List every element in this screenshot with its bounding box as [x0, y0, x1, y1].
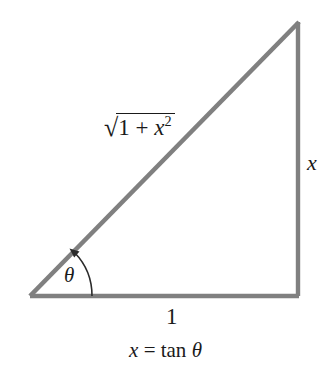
radical-sign: √	[104, 115, 118, 141]
adjacent-side-label: 1	[166, 305, 178, 328]
opposite-side-label: x	[307, 152, 317, 174]
radicand-variable: x	[154, 115, 164, 140]
radical-expression: √1 + x2	[104, 113, 175, 140]
triangle-hypotenuse-line	[30, 22, 299, 296]
caption-function: tan	[161, 338, 187, 362]
triangle-figure: √1 + x2 x 1 θ x = tan θ	[0, 0, 331, 371]
radicand-exponent: 2	[164, 113, 171, 129]
caption-variable: x	[129, 338, 138, 362]
hypotenuse-label: √1 + x2	[104, 113, 175, 140]
caption-angle: θ	[192, 338, 202, 362]
radicand-first-term: 1	[118, 115, 130, 140]
caption-equals: =	[138, 338, 160, 362]
radicand-operator: +	[130, 115, 154, 140]
radicand: 1 + x2	[116, 113, 174, 139]
angle-label: θ	[64, 265, 74, 286]
angle-arc	[75, 253, 93, 297]
figure-caption: x = tan θ	[0, 338, 331, 363]
